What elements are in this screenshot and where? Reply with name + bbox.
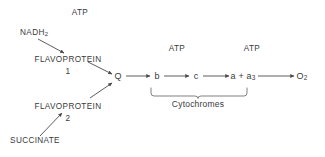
chain-node-cytochrome-c: c: [194, 72, 199, 81]
arrow-nadh2-to-fp1: [38, 39, 64, 53]
chain-node-cytochrome-b: b: [154, 72, 159, 81]
nadh2-subscript: 2: [45, 31, 48, 37]
chain-node-cytochrome-a-a3: a + a3: [231, 72, 256, 82]
input-succinate-label: SUCCINATE: [10, 137, 60, 145]
carrier-flavoprotein-2-label: FLAVOPROTEIN: [35, 103, 102, 111]
input-nadh2-label: NADH2: [20, 29, 48, 38]
atp-label-2: ATP: [169, 45, 185, 53]
atp-label-1: ATP: [72, 9, 88, 17]
chain-node-q: Q: [114, 72, 121, 81]
chain-node-oxygen: O2: [297, 72, 308, 82]
atp-label-3: ATP: [244, 45, 260, 53]
cytochromes-brace-icon: [151, 88, 247, 99]
electron-transport-chain-diagram: ATP ATP ATP NADH2 SUCCINATE FLAVOPROTEIN…: [0, 0, 325, 157]
arrow-succinate-to-fp2: [40, 113, 62, 136]
diagram-canvas: [0, 0, 325, 157]
arrow-fp2-to-q: [90, 83, 112, 98]
a3-subscript: 3: [252, 74, 256, 81]
carrier-flavoprotein-1-number: 1: [66, 68, 71, 76]
o2-subscript: 2: [304, 74, 308, 81]
carrier-flavoprotein-1-label: FLAVOPROTEIN: [35, 56, 102, 64]
cytochromes-brace-label: Cytochromes: [172, 100, 224, 109]
arrow-group: [38, 39, 294, 136]
carrier-flavoprotein-2-number: 2: [66, 115, 71, 123]
